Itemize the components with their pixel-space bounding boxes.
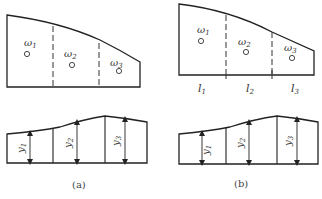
centroid-marker: [198, 38, 203, 43]
ordinate-label-y3: y3: [282, 135, 295, 147]
caption-a: (a): [72, 179, 86, 190]
ordinate-label-y2: y2: [234, 137, 247, 149]
centroid-marker: [69, 62, 74, 67]
ordinate-label-y1: y1: [15, 143, 28, 154]
panel-a-top-shape: [7, 15, 140, 87]
centroid-marker: [289, 55, 294, 60]
region-label-omega2: ω2: [64, 48, 77, 61]
centroid-marker: [243, 49, 248, 54]
span-label-l1: l1: [198, 82, 206, 96]
ordinate-label-y2: y2: [62, 137, 75, 149]
figure: ω1 ω2 ω3 ω1 ω2 ω3 l1 l2 l3 y1 y2 y3 y1: [0, 0, 322, 199]
panel-a-bottom-shape: [7, 116, 147, 163]
centroid-marker: [24, 51, 29, 56]
span-label-l3: l3: [291, 82, 300, 96]
span-label-l2: l2: [246, 82, 255, 96]
caption-b: (b): [234, 178, 248, 189]
region-label-omega3: ω3: [110, 57, 123, 70]
panel-b-bottom-shape: [179, 116, 318, 164]
ordinate-label-y3: y3: [110, 135, 123, 147]
region-label-omega2: ω2: [238, 36, 251, 49]
region-label-omega1: ω1: [197, 24, 210, 37]
region-label-omega3: ω3: [284, 42, 297, 55]
region-label-omega1: ω1: [24, 37, 37, 50]
